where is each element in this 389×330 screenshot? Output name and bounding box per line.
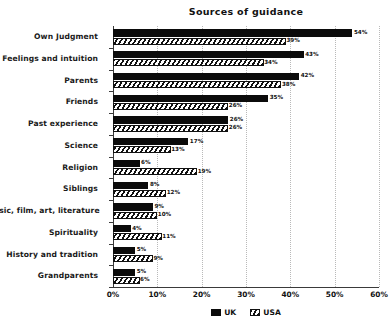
bar-value-label: 13%: [171, 147, 184, 153]
bar-usa: 19%: [113, 168, 197, 175]
bar-usa: 26%: [113, 103, 228, 110]
bar-usa: 11%: [113, 233, 162, 240]
category-row: Feelings and intuition43%34%: [113, 48, 379, 70]
category-row: Grandparents5%6%: [113, 265, 379, 287]
gridline-60: [379, 26, 381, 287]
category-row: Religion6%19%: [113, 157, 379, 179]
category-label: Spirituality: [0, 222, 98, 244]
x-axis-tick-label: 10%: [148, 290, 166, 299]
bar-value-label: 5%: [137, 269, 147, 275]
bar-value-label: 39%: [286, 38, 299, 44]
category-row: Friends35%26%: [113, 91, 379, 113]
bar-uk: 26%: [113, 116, 228, 123]
bar-value-label: 54%: [354, 30, 367, 36]
legend-label: USA: [263, 308, 281, 317]
category-row: Science17%13%: [113, 135, 379, 157]
bar-uk: 4%: [113, 225, 131, 232]
legend-swatch-uk-icon: [211, 309, 221, 316]
x-axis-tick-label: 50%: [326, 290, 344, 299]
category-label: Siblings: [0, 178, 98, 200]
category-row: Past experience26%26%: [113, 113, 379, 135]
bar-value-label: 19%: [198, 169, 211, 175]
bar-value-label: 5%: [137, 248, 147, 254]
legend-item-usa[interactable]: USA: [250, 308, 281, 317]
plot-area: Own Judgment54%39%Feelings and intuition…: [113, 26, 379, 287]
bar-value-label: 10%: [158, 212, 171, 218]
bar-uk: 43%: [113, 51, 304, 58]
category-label: Past experience: [0, 113, 98, 135]
category-row: History and tradition5%9%: [113, 244, 379, 266]
bar-chart: Sources of guidance Own Judgment54%39%Fe…: [0, 0, 389, 330]
category-row: Music, film, art, literature9%10%: [113, 200, 379, 222]
bar-usa: 26%: [113, 125, 228, 132]
category-label: Religion: [0, 157, 98, 179]
bar-usa: 12%: [113, 190, 166, 197]
bar-usa: 6%: [113, 277, 140, 284]
bar-usa: 38%: [113, 81, 281, 88]
category-label: Feelings and intuition: [0, 48, 98, 70]
category-label: Parents: [0, 70, 98, 92]
legend-label: UK: [224, 308, 236, 317]
bar-value-label: 26%: [229, 104, 242, 110]
bar-usa: 9%: [113, 255, 153, 262]
legend-item-uk[interactable]: UK: [211, 308, 236, 317]
x-axis-tick-label: 20%: [193, 290, 211, 299]
bar-uk: 6%: [113, 160, 140, 167]
x-axis-line: [113, 287, 379, 288]
category-row: Spirituality4%11%: [113, 222, 379, 244]
bar-value-label: 26%: [229, 125, 242, 131]
bar-uk: 17%: [113, 138, 188, 145]
category-row: Own Judgment54%39%: [113, 26, 379, 48]
bar-uk: 35%: [113, 95, 268, 102]
bar-value-label: 42%: [301, 74, 314, 80]
bar-usa: 10%: [113, 212, 157, 219]
legend-swatch-usa-icon: [250, 309, 260, 316]
bar-value-label: 8%: [150, 182, 160, 188]
category-row: Parents42%38%: [113, 70, 379, 92]
bar-usa: 13%: [113, 146, 171, 153]
chart-legend: UKUSA: [113, 308, 379, 317]
bar-uk: 5%: [113, 247, 135, 254]
x-axis-tick-label: 60%: [370, 290, 388, 299]
chart-title: Sources of guidance: [113, 6, 379, 17]
category-label: Music, film, art, literature: [0, 200, 98, 222]
x-axis-tick-label: 40%: [281, 290, 299, 299]
bar-uk: 9%: [113, 203, 153, 210]
bar-usa: 39%: [113, 38, 286, 45]
bar-value-label: 34%: [264, 60, 277, 66]
bar-uk: 54%: [113, 29, 352, 36]
x-axis-tick-label: 30%: [237, 290, 255, 299]
category-label: Grandparents: [0, 265, 98, 287]
bar-value-label: 11%: [162, 234, 175, 240]
category-label: Science: [0, 135, 98, 157]
bar-value-label: 26%: [230, 117, 243, 123]
bar-uk: 5%: [113, 269, 135, 276]
bar-value-label: 6%: [140, 278, 150, 284]
bar-value-label: 17%: [190, 139, 203, 145]
x-axis-tick-label: 0%: [107, 290, 120, 299]
bar-value-label: 6%: [141, 161, 151, 167]
bar-usa: 34%: [113, 59, 264, 66]
bar-value-label: 4%: [132, 226, 142, 232]
category-label: History and tradition: [0, 244, 98, 266]
bar-value-label: 38%: [282, 82, 295, 88]
category-label: Own Judgment: [0, 26, 98, 48]
bar-value-label: 9%: [154, 204, 164, 210]
x-axis-tick-labels: 0%10%20%30%40%50%60%: [113, 290, 379, 302]
bar-value-label: 9%: [153, 256, 163, 262]
bar-value-label: 12%: [167, 191, 180, 197]
category-row: Siblings8%12%: [113, 178, 379, 200]
bar-uk: 42%: [113, 73, 299, 80]
bar-value-label: 43%: [305, 52, 318, 58]
bar-uk: 8%: [113, 182, 148, 189]
category-label: Friends: [0, 91, 98, 113]
bar-value-label: 35%: [270, 95, 283, 101]
